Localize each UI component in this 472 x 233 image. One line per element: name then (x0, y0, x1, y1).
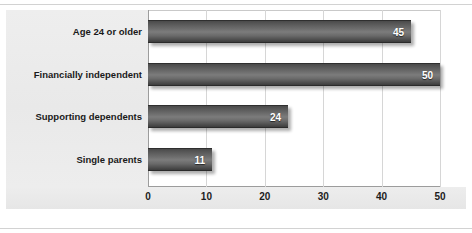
plot-top-border (148, 10, 441, 11)
bar-value-label-3: 11 (194, 154, 205, 165)
bar-chart-figure: Age 24 or olderFinancially independentSu… (0, 0, 472, 233)
gridline-50 (440, 10, 441, 187)
category-label-1: Financially independent (6, 69, 142, 81)
x-tick-label-50: 50 (420, 190, 460, 204)
bar-value-label-2: 24 (270, 111, 281, 122)
x-tick-label-20: 20 (245, 190, 285, 204)
figure-bottom-rule (0, 228, 472, 229)
x-tick-label-10: 10 (186, 190, 226, 204)
bar-0[interactable]: 45 (148, 20, 411, 43)
x-tick-label-0: 0 (128, 190, 168, 204)
bar-3[interactable]: 11 (148, 148, 212, 171)
bar-value-label-1: 50 (422, 69, 433, 80)
bar-value-label-0: 45 (393, 26, 404, 37)
figure-top-rule (0, 4, 472, 5)
bar-1[interactable]: 50 (148, 63, 440, 86)
category-label-0: Age 24 or older (6, 26, 142, 38)
bar-2[interactable]: 24 (148, 105, 288, 128)
category-label-3: Single parents (6, 154, 142, 166)
x-tick-label-40: 40 (362, 190, 402, 204)
x-tick-label-30: 30 (303, 190, 343, 204)
category-label-2: Supporting dependents (6, 111, 142, 123)
